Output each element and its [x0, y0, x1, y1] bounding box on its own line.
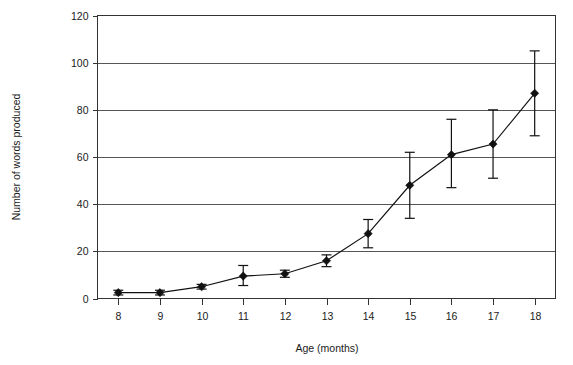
x-tick-label: 10 — [197, 310, 209, 322]
gridlines — [98, 64, 556, 252]
line-chart: 020406080100120 89101112131415161718 Age… — [0, 0, 573, 365]
chart-container: 020406080100120 89101112131415161718 Age… — [0, 0, 573, 365]
data-point-marker — [322, 257, 330, 265]
y-tick-label: 40 — [77, 198, 89, 210]
y-tick-label: 80 — [77, 104, 89, 116]
x-tick-label: 12 — [280, 310, 292, 322]
x-axis-title: Age (months) — [295, 342, 358, 354]
y-tick-label: 100 — [71, 57, 89, 69]
data-point-marker — [281, 270, 289, 278]
y-axis-tick-labels: 020406080100120 — [71, 10, 89, 305]
x-tick-label: 14 — [363, 310, 375, 322]
x-tick-label: 9 — [158, 310, 164, 322]
data-point-marker — [239, 272, 247, 280]
y-tick-label: 120 — [71, 10, 89, 22]
x-axis-tick-labels: 89101112131415161718 — [116, 310, 542, 322]
x-tick-label: 13 — [322, 310, 334, 322]
y-axis-title: Number of words produced — [10, 94, 22, 221]
x-tick-label: 15 — [405, 310, 417, 322]
x-tick-label: 17 — [488, 310, 500, 322]
x-tick-label: 18 — [530, 310, 542, 322]
y-tick-label: 0 — [83, 293, 89, 305]
x-tick-label: 8 — [116, 310, 122, 322]
y-tick-label: 20 — [77, 245, 89, 257]
y-axis-ticks — [93, 17, 98, 300]
x-tick-label: 16 — [446, 310, 458, 322]
data-series — [113, 51, 539, 297]
x-axis-ticks — [119, 299, 536, 305]
y-tick-label: 60 — [77, 151, 89, 163]
x-tick-label: 11 — [238, 310, 249, 322]
